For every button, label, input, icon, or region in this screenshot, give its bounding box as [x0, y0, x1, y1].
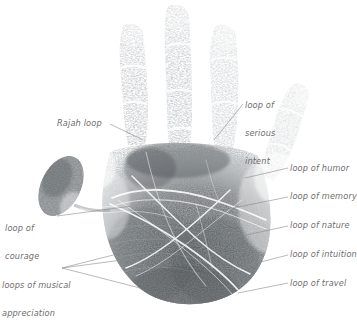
- middle-finger: [165, 5, 194, 148]
- ring-finger: [210, 25, 239, 152]
- label-travel: loop of travel: [290, 279, 346, 288]
- label-intuition: loop of intuition: [290, 250, 357, 259]
- label-musical-appreciation: loops of musical appreciation: [2, 262, 71, 322]
- label-humor: loop of humor: [290, 164, 349, 173]
- label-serious-intent: loop of serious intent: [245, 82, 275, 185]
- label-musical-appreciation-line1: loops of musical: [2, 281, 71, 290]
- leader-travel: [238, 283, 288, 293]
- label-nature: loop of nature: [290, 221, 350, 230]
- label-serious-intent-line3: intent: [245, 157, 275, 166]
- label-memory: loop of memory: [290, 192, 357, 201]
- label-courage-line2: courage: [5, 252, 39, 261]
- label-serious-intent-line1: loop of: [245, 101, 275, 110]
- label-rajah-loop: Rajah loop: [57, 119, 102, 128]
- label-musical-appreciation-line2: appreciation: [2, 309, 71, 318]
- index-finger: [120, 24, 148, 145]
- label-serious-intent-line2: serious: [245, 129, 275, 138]
- label-courage-line1: loop of: [5, 224, 39, 233]
